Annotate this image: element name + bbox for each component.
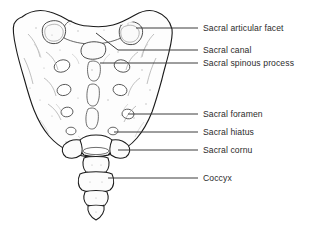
label-coccyx: Coccyx <box>203 174 232 183</box>
label-sacral-articular-facet: Sacral articular facet <box>203 24 284 33</box>
label-sacral-hiatus: Sacral hiatus <box>203 128 254 137</box>
label-sacral-foramen: Sacral foramen <box>203 110 263 119</box>
coccyx-tip <box>88 205 104 220</box>
coccyx-segments <box>78 157 113 221</box>
sacrum-body <box>13 11 172 220</box>
hiatus-inner-shadow <box>83 147 109 154</box>
sacrum-illustration <box>0 0 326 226</box>
label-sacral-cornu: Sacral cornu <box>203 146 252 155</box>
label-sacral-canal: Sacral canal <box>203 46 252 55</box>
label-sacral-spinous-process: Sacral spinous process <box>203 59 294 68</box>
sacrum-anatomical-diagram: Sacral articular facet Sacral canal Sacr… <box>0 0 326 226</box>
sacral-canal-opening <box>81 42 106 60</box>
coccyx-segment-1 <box>83 157 109 174</box>
coccyx-segment-2 <box>78 172 113 193</box>
median-sacral-crest <box>86 61 100 129</box>
